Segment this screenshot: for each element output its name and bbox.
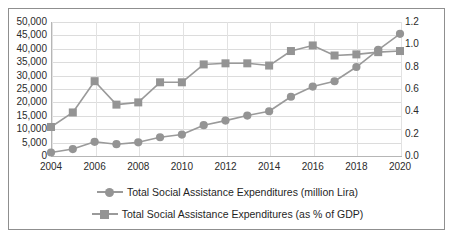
y-axis-left-tick-label: 15,000	[0, 111, 47, 121]
data-point-marker[interactable]	[396, 47, 404, 55]
data-point-marker[interactable]	[47, 123, 55, 131]
data-point-marker[interactable]	[47, 148, 55, 156]
series-line	[51, 34, 400, 153]
data-point-marker[interactable]	[178, 130, 186, 138]
x-axis-tick-label: 2004	[29, 161, 73, 172]
data-point-marker[interactable]	[222, 59, 230, 67]
y-axis-left-tick-label: 5,000	[0, 138, 47, 148]
y-axis-left-tick-label: 35,000	[0, 57, 47, 67]
data-point-marker[interactable]	[134, 138, 142, 146]
data-point-marker[interactable]	[352, 63, 360, 71]
data-point-marker[interactable]	[200, 60, 208, 68]
data-point-marker[interactable]	[265, 62, 273, 70]
y-axis-right-tick-label: 0.6	[405, 84, 437, 94]
y-axis-right-tick-label: 0.2	[405, 129, 437, 139]
data-point-marker[interactable]	[396, 30, 404, 38]
x-axis-tick-label: 2014	[247, 161, 291, 172]
data-point-marker[interactable]	[243, 59, 251, 67]
gridline-vertical	[401, 22, 402, 156]
data-point-marker[interactable]	[178, 78, 186, 86]
x-axis-tick-label: 2016	[291, 161, 335, 172]
legend-item-expenditures-percent-gdp[interactable]: Total Social Assistance Expenditures (as…	[9, 203, 446, 225]
plot-area-wrapper: 05,00010,00015,00020,00025,00030,00035,0…	[9, 9, 446, 179]
y-axis-left-tick-label: 40,000	[0, 44, 47, 54]
legend-label-expenditures-million-lira: Total Social Assistance Expenditures (mi…	[127, 186, 358, 198]
y-axis-right-tick-label: 1.0	[405, 39, 437, 49]
x-axis-tick-label: 2020	[378, 161, 422, 172]
chart-figure: 05,00010,00015,00020,00025,00030,00035,0…	[8, 8, 445, 230]
data-point-marker[interactable]	[287, 47, 295, 55]
data-point-marker[interactable]	[200, 121, 208, 129]
data-point-marker[interactable]	[243, 111, 251, 119]
y-axis-right-tick-label: 0.8	[405, 62, 437, 72]
x-axis-tick-label: 2018	[334, 161, 378, 172]
data-point-marker[interactable]	[330, 77, 338, 85]
y-axis-left-tick-label: 25,000	[0, 84, 47, 94]
y-axis-left-tick-label: 30,000	[0, 71, 47, 81]
legend-item-expenditures-million-lira[interactable]: Total Social Assistance Expenditures (mi…	[9, 181, 446, 203]
data-point-marker[interactable]	[69, 108, 77, 116]
data-point-marker[interactable]	[331, 52, 339, 60]
y-axis-right-tick-label: 0.0	[405, 151, 437, 161]
y-axis-right-tick-label: 0.4	[405, 106, 437, 116]
y-axis-right-tick-label: 1.2	[405, 17, 437, 27]
data-point-marker[interactable]	[134, 98, 142, 106]
data-point-marker[interactable]	[374, 48, 382, 56]
data-point-marker[interactable]	[287, 93, 295, 101]
data-point-marker[interactable]	[221, 117, 229, 125]
data-point-marker[interactable]	[112, 101, 120, 109]
legend-marker-circle-icon	[97, 186, 123, 198]
legend-marker-square-icon	[92, 208, 118, 220]
data-point-marker[interactable]	[265, 107, 273, 115]
chart-legend: Total Social Assistance Expenditures (mi…	[9, 181, 446, 225]
x-axis-tick-label: 2008	[116, 161, 160, 172]
data-point-marker[interactable]	[156, 133, 164, 141]
data-point-marker[interactable]	[309, 82, 317, 90]
series-line	[51, 45, 400, 127]
data-point-marker[interactable]	[91, 138, 99, 146]
x-axis-tick-label: 2006	[73, 161, 117, 172]
series-layer	[51, 22, 401, 157]
data-point-marker[interactable]	[352, 50, 360, 58]
y-axis-left-tick-label: 20,000	[0, 97, 47, 107]
data-point-marker[interactable]	[91, 77, 99, 85]
y-axis-left-tick-label: 10,000	[0, 124, 47, 134]
data-point-marker[interactable]	[69, 145, 77, 153]
x-axis-tick-label: 2010	[160, 161, 204, 172]
data-point-marker[interactable]	[156, 78, 164, 86]
y-axis-left-tick-label: 50,000	[0, 17, 47, 27]
y-axis-left-tick-label: 45,000	[0, 30, 47, 40]
x-axis-tick-label: 2012	[204, 161, 248, 172]
data-point-marker[interactable]	[309, 41, 317, 49]
legend-label-expenditures-percent-gdp: Total Social Assistance Expenditures (as…	[122, 208, 364, 220]
y-axis-left-tick-label: 0	[0, 151, 47, 161]
data-point-marker[interactable]	[112, 140, 120, 148]
